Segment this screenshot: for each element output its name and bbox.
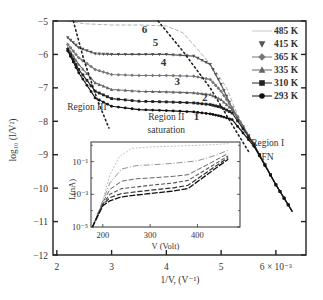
- region-annotation: Region II: [148, 112, 184, 122]
- data-point: [165, 74, 169, 78]
- data-point: [138, 100, 141, 103]
- data-point: [236, 119, 239, 122]
- data-point: [81, 74, 84, 77]
- data-point: [222, 116, 225, 119]
- legend-marker-icon: [259, 80, 265, 86]
- data-point: [69, 55, 72, 58]
- data-point: [117, 98, 120, 101]
- data-point: [110, 97, 113, 100]
- data-point: [158, 100, 161, 103]
- data-point: [214, 114, 217, 117]
- inset-plot-area: 20030040010⁻¹10⁻³10⁻⁵V (Volt)I (nA): [67, 142, 240, 251]
- region-annotation: Region III: [67, 102, 106, 112]
- data-point: [185, 101, 188, 104]
- inset-y-tick-label: 10⁻¹: [72, 157, 88, 167]
- data-point: [123, 73, 127, 77]
- region-annotation: FN: [262, 152, 274, 162]
- data-point: [77, 71, 80, 74]
- y-tick-label: −10: [33, 184, 48, 194]
- legend-label: 365 K: [274, 52, 299, 62]
- x-axis-title: 1/V, (V⁻¹): [161, 275, 200, 286]
- data-point: [209, 113, 212, 116]
- legend-label: 485 K: [274, 26, 299, 36]
- inset-x-title: V (Volt): [152, 241, 180, 251]
- curve-label-5: 5: [153, 36, 159, 48]
- data-point: [106, 95, 109, 98]
- data-point: [137, 74, 141, 78]
- data-point: [212, 113, 215, 116]
- x-tick-label: 5: [219, 262, 224, 272]
- legend-item-365k: 365 K: [252, 52, 299, 62]
- data-point: [66, 50, 69, 53]
- data-point: [130, 73, 134, 77]
- legend-item-310k: 310 K: [252, 78, 299, 88]
- data-point: [236, 125, 239, 128]
- data-point: [165, 100, 168, 103]
- data-point: [217, 105, 220, 108]
- data-point: [228, 110, 231, 113]
- data-point: [110, 73, 114, 77]
- data-point: [124, 107, 127, 110]
- legend-label: 415 K: [274, 39, 299, 49]
- data-point: [269, 174, 272, 177]
- data-point: [144, 100, 147, 103]
- data-point: [131, 107, 134, 110]
- y-tick-label: −9: [38, 150, 48, 160]
- data-point: [242, 132, 245, 135]
- data-point: [144, 108, 147, 111]
- curve-label-1: 1: [194, 110, 200, 122]
- data-point: [102, 70, 106, 74]
- x-tick-label: 2: [54, 262, 59, 272]
- data-point: [242, 127, 245, 130]
- data-point: [151, 74, 155, 78]
- data-point: [274, 183, 277, 186]
- data-point: [201, 112, 204, 115]
- data-point: [81, 78, 84, 81]
- curve-label-4: 4: [161, 56, 167, 68]
- data-point: [106, 71, 110, 75]
- data-point: [185, 74, 189, 78]
- data-point: [151, 100, 154, 103]
- data-point: [209, 103, 212, 106]
- data-point: [94, 96, 97, 99]
- data-point: [247, 138, 250, 141]
- curve-label-2: 2: [202, 91, 208, 103]
- y-tick-label: −8: [38, 117, 48, 127]
- legend-label: 293 K: [274, 91, 299, 101]
- data-point: [86, 79, 89, 82]
- curve-label-3: 3: [175, 75, 181, 87]
- data-point: [205, 112, 208, 115]
- data-point: [231, 118, 234, 121]
- inset-frame: [91, 142, 240, 227]
- data-point: [98, 92, 101, 95]
- chart-figure: 654321Region IIIRegion IIsaturationRegio…: [0, 0, 323, 300]
- guide-line: [73, 21, 109, 128]
- legend: 485 K415 K365 K335 K310 K293 K: [252, 26, 299, 101]
- legend-marker-icon: [258, 53, 265, 60]
- data-point: [158, 74, 162, 78]
- data-point: [185, 110, 188, 113]
- data-point: [258, 155, 261, 158]
- region-annotation: Region I: [251, 138, 284, 148]
- data-point: [287, 203, 290, 206]
- x-tick-label: 4: [164, 262, 169, 272]
- inset-y-title: I (nA): [67, 179, 77, 200]
- legend-item-415k: 415 K: [259, 39, 299, 49]
- curve-label-6: 6: [142, 23, 148, 35]
- region-annotation: saturation: [148, 125, 186, 135]
- data-point: [124, 98, 127, 101]
- legend-item-293k: 293 K: [252, 91, 299, 101]
- legend-marker-icon: [259, 41, 266, 47]
- data-point: [75, 66, 78, 69]
- legend-item-485k: 485 K: [252, 26, 299, 36]
- y-tick-label: −7: [38, 83, 48, 93]
- data-point: [192, 102, 195, 105]
- data-point: [192, 74, 196, 78]
- x-tick-label: 3: [109, 262, 114, 272]
- y-tick-label: −11: [33, 217, 48, 227]
- data-point: [110, 105, 113, 108]
- legend-label: 335 K: [274, 65, 299, 75]
- inset-y-tick-label: 10⁻⁵: [72, 222, 88, 232]
- data-point: [131, 99, 134, 102]
- chart-canvas: 654321Region IIIRegion IIsaturationRegio…: [0, 0, 323, 300]
